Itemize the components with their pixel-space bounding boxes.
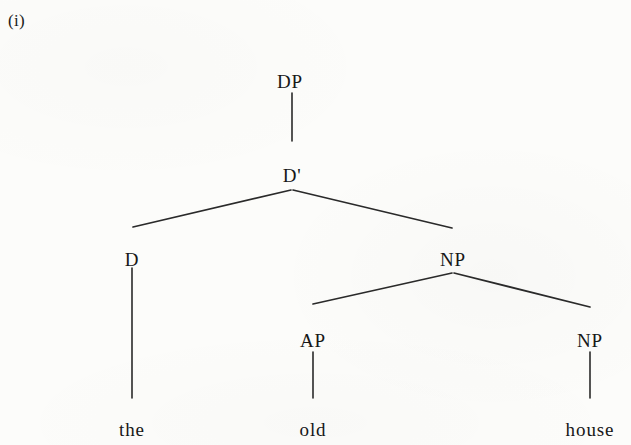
- tree-node-d: D: [125, 250, 140, 269]
- figure-page: (i) DPD'DNPAPNP theoldhouse: [0, 0, 631, 445]
- syntax-tree-lines: [0, 0, 631, 445]
- tree-node-dp: DP: [277, 72, 303, 91]
- tree-edge-np1-to-ap: [313, 273, 452, 304]
- tree-edge-dbar-to-d: [133, 190, 291, 227]
- tree-edge-np1-to-np2: [454, 273, 590, 307]
- tree-edge-dbar-to-np1: [293, 190, 452, 228]
- tree-terminal-house: house: [566, 420, 615, 439]
- tree-node-np2: NP: [577, 331, 603, 350]
- tree-node-np1: NP: [440, 250, 466, 269]
- tree-node-dbar: D': [283, 166, 302, 185]
- tree-terminal-old: old: [300, 420, 327, 439]
- tree-terminal-the: the: [119, 420, 145, 439]
- tree-node-ap: AP: [300, 331, 326, 350]
